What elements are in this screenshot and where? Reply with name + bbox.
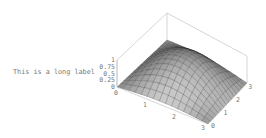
y-tick-label: 0 [211, 122, 215, 130]
x-tick-label: 2 [172, 113, 176, 121]
y-tick-label: 3 [248, 83, 252, 91]
z-axis-label: This is a long label [13, 68, 95, 76]
x-tick-label: 3 [201, 124, 205, 132]
y-tick-label: 1 [223, 109, 227, 117]
surface-plot: 00.250.50.75101230123 This is a long lab… [0, 0, 266, 138]
x-tick-label: 1 [143, 101, 147, 109]
z-tick-label: 1 [111, 56, 115, 64]
x-tick-label: 0 [114, 89, 118, 97]
y-tick-label: 2 [236, 96, 240, 104]
surface-mesh [117, 40, 247, 124]
